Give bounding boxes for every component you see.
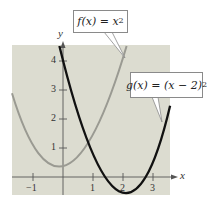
- f-label-exponent: 2: [119, 16, 124, 25]
- x-tick-label-3: 3: [150, 182, 155, 193]
- y-tick-label-3: 3: [51, 83, 56, 94]
- plot-panel: [12, 45, 170, 195]
- x-tick-label-2: 2: [120, 182, 125, 193]
- y-axis-label: y: [58, 27, 63, 39]
- x-axis-arrow-icon: [171, 175, 178, 180]
- g-function-label: g(x) = (x − 2)2: [130, 72, 203, 98]
- y-axis-arrow-icon: [61, 41, 66, 48]
- x-axis-label: x: [180, 169, 185, 181]
- y-tick-label-2: 2: [51, 112, 56, 123]
- f-label-text: f(x) = x: [77, 15, 118, 28]
- g-label-exponent: 2: [202, 80, 207, 89]
- f-function-label: f(x) = x2: [73, 10, 128, 33]
- y-tick-label-4: 4: [51, 54, 56, 65]
- y-tick-label-1: 1: [51, 141, 56, 152]
- x-tick-label-1: 1: [90, 182, 95, 193]
- x-tick-label-neg1: −1: [26, 182, 37, 193]
- g-label-text: g(x) = (x − 2): [126, 79, 202, 92]
